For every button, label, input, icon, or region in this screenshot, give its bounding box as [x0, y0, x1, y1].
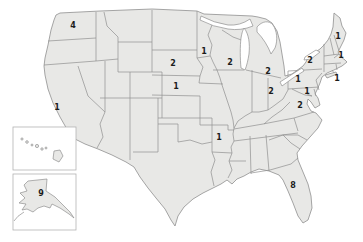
count-label-connecticut: 1	[334, 75, 340, 83]
count-label-wisconsin: 2	[227, 59, 233, 67]
count-label-south-dakota: 2	[170, 60, 176, 68]
count-label-maryland: 1	[304, 88, 310, 96]
count-label-michigan: 2	[265, 68, 271, 76]
count-label-pennsylvania: 1	[295, 76, 301, 84]
count-label-new-york: 2	[307, 57, 313, 65]
us-map-figure: 412112221211112189	[0, 0, 363, 242]
count-label-washington: 4	[70, 22, 76, 30]
labels-layer: 412112221211112189	[0, 0, 363, 242]
count-label-massachusetts: 1	[338, 52, 344, 60]
count-label-california: 1	[54, 104, 60, 112]
count-label-nebraska: 1	[173, 83, 179, 91]
count-label-alaska: 9	[38, 190, 44, 198]
count-label-ohio: 2	[268, 88, 274, 96]
count-label-virginia: 2	[297, 102, 303, 110]
count-label-arkansas: 1	[216, 134, 222, 142]
count-label-minnesota: 1	[201, 48, 207, 56]
count-label-maine: 1	[335, 33, 341, 41]
count-label-florida: 8	[290, 182, 296, 190]
